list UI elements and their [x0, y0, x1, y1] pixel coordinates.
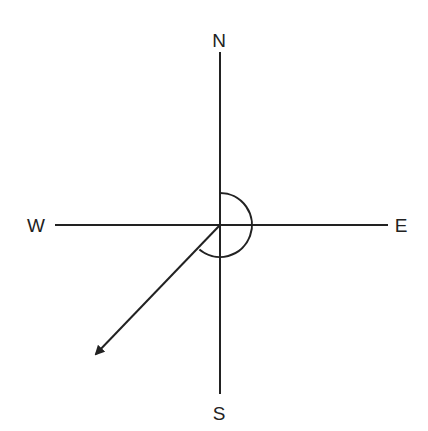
label-west: W	[27, 215, 45, 236]
bearing-arrow	[96, 225, 220, 354]
compass-diagram: N S W E	[0, 0, 428, 431]
label-south: S	[213, 403, 226, 424]
label-north: N	[212, 30, 226, 51]
label-east: E	[395, 215, 408, 236]
